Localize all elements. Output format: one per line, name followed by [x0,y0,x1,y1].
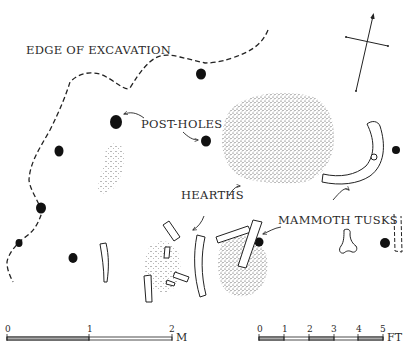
post-hole [201,136,211,147]
north-arrow-icon [345,16,389,92]
post-holes-arrow-2 [183,132,198,140]
tusk-fragment [163,221,180,241]
label-post-holes: POST-HOLES [141,119,222,131]
post-hole [110,115,122,129]
post-hole [36,203,46,214]
scale-imperial-tick-3: 3 [331,325,337,334]
post-hole [392,146,400,154]
post-hole [69,253,78,263]
scale-metric-tick-2: 2 [169,325,175,334]
scale-imperial-tick-5: 5 [380,325,386,334]
post-hole [196,69,206,80]
tusk-fragment [144,275,152,302]
label-edge-of-excavation: EDGE OF EXCAVATION [26,45,171,57]
scale-imperial-tick-4: 4 [356,325,362,334]
scale-bar-metric [7,334,172,341]
scale-imperial-tick-0: 0 [257,325,263,334]
hearth-large [222,93,334,183]
hearths-arrow-2 [193,216,204,230]
bone [340,229,357,253]
post-hole [16,239,23,247]
scale-metric-tick-1: 1 [87,325,93,334]
scale-bar-imperial [259,334,383,341]
scale-metric-unit: M [176,332,187,343]
tusks-arrow-2 [263,227,281,234]
post-holes [16,69,401,264]
tusk-long [195,235,206,297]
tusk-west [100,243,108,282]
scale-imperial-tick-2: 2 [307,325,313,334]
scale-imperial-unit: FT [387,332,402,343]
post-hole [55,146,64,157]
tusk-fragment [164,247,170,258]
label-mammoth-tusks: MAMMOTH TUSKS [278,215,398,227]
label-hearths: HEARTHS [181,190,244,202]
hearth-small-west [98,143,124,193]
scale-imperial-tick-1: 1 [282,325,288,334]
scale-metric-tick-0: 0 [5,325,11,334]
post-hole [380,238,390,248]
tusks-arrow-1 [333,189,349,200]
